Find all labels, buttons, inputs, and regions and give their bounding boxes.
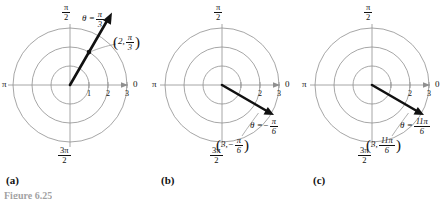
axis-label-left-c: π bbox=[302, 80, 307, 89]
theta-annotation-c: θ = 11π 6 bbox=[400, 117, 431, 135]
axis-label-right-a: 0 bbox=[133, 80, 138, 89]
theta-annotation-b: θ =− π 6 bbox=[250, 117, 279, 135]
point-annotation-a: (2, π 3 ) bbox=[113, 33, 140, 51]
theta-annotation-a: θ = π 3 bbox=[82, 10, 105, 28]
panel-caption-a: (a) bbox=[6, 174, 19, 186]
radial-tick-2-b: 2 bbox=[258, 89, 262, 98]
radial-tick-2-a: 2 bbox=[106, 89, 110, 98]
figure-number: Figure 6.25 bbox=[4, 190, 52, 199]
axis-label-top-b: π 2 bbox=[213, 3, 223, 21]
panel-caption-c: (c) bbox=[313, 174, 325, 186]
radial-tick-3-a: 3 bbox=[125, 89, 129, 98]
axis-lines-a bbox=[8, 24, 128, 147]
point-annotation-b: (3,− π 6 ) bbox=[216, 136, 249, 154]
point-annotation-c: (3, 11π 6 ) bbox=[366, 136, 401, 154]
axis-label-bottom-a: 3π 2 bbox=[57, 146, 72, 164]
polar-panel-c: π 2 π 0 3π 2 2 3 θ = 11π 6 (3, 11π bbox=[299, 0, 448, 175]
axis-label-right-b: 0 bbox=[285, 80, 290, 89]
axis-label-top-a: π 2 bbox=[61, 3, 71, 21]
radial-tick-3-c: 3 bbox=[427, 89, 431, 98]
radial-tick-2-c: 2 bbox=[408, 89, 412, 98]
plotted-point-a bbox=[87, 50, 92, 55]
axis-label-top-c: π 2 bbox=[363, 3, 373, 21]
polar-plot-a bbox=[0, 0, 150, 175]
polar-coordinates-figure: π 2 π 0 3π 2 1 2 3 θ = π 3 ( bbox=[0, 0, 448, 199]
theta-ray-c bbox=[372, 85, 424, 115]
axis-label-left-b: π bbox=[152, 80, 157, 89]
polar-panel-b: π 2 π 0 3π 2 2 3 θ =− π 6 (3,− π bbox=[150, 0, 300, 175]
axis-label-left-a: π bbox=[2, 80, 7, 89]
axis-label-right-c: 0 bbox=[435, 80, 440, 89]
radial-tick-1-a: 1 bbox=[87, 89, 91, 98]
radial-tick-3-b: 3 bbox=[277, 89, 281, 98]
theta-ray-b bbox=[222, 85, 274, 115]
panel-caption-b: (b) bbox=[161, 174, 174, 186]
polar-panel-a: π 2 π 0 3π 2 1 2 3 θ = π 3 ( bbox=[0, 0, 150, 175]
